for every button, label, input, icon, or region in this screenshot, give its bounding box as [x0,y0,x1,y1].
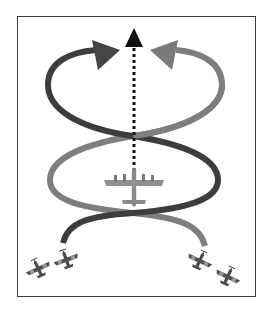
fighter-right-lead-icon [184,245,216,274]
fighter-left-rear-icon [22,253,54,282]
center-arrowhead-icon [125,28,143,47]
fighter-right-rear-icon [212,261,244,290]
light-arrowhead-icon [150,40,178,70]
bomber-icon [104,167,164,207]
fighter-left-lead-icon [50,245,81,272]
light-path [50,50,222,246]
dark-arrowhead-icon [92,40,120,70]
light-path-overlap [133,85,222,136]
weave-diagram [0,0,266,311]
